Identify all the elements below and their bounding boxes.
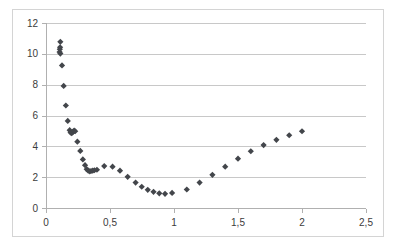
scatter-plot: 02468101200,511,522,5 bbox=[0, 0, 398, 248]
x-tick-label-2: 1 bbox=[171, 217, 177, 228]
data-point-0-0 bbox=[57, 39, 63, 45]
x-axis-tick-labels: 00,511,522,5 bbox=[43, 217, 373, 228]
data-point-0-38 bbox=[184, 186, 190, 192]
data-points bbox=[56, 39, 305, 197]
data-point-0-33 bbox=[145, 187, 151, 193]
y-tick-label-5: 10 bbox=[27, 48, 39, 59]
data-point-0-47 bbox=[299, 128, 305, 134]
data-point-0-39 bbox=[197, 179, 203, 185]
chart-canvas: 02468101200,511,522,5 bbox=[0, 0, 398, 248]
data-point-0-7 bbox=[63, 102, 69, 108]
y-tick-label-2: 4 bbox=[32, 141, 38, 152]
data-point-0-46 bbox=[286, 132, 292, 138]
data-point-0-16 bbox=[74, 139, 80, 145]
data-point-0-30 bbox=[125, 174, 131, 180]
gridlines bbox=[46, 24, 366, 209]
data-point-0-45 bbox=[273, 137, 279, 143]
y-tick-label-3: 6 bbox=[32, 110, 38, 121]
data-point-0-34 bbox=[150, 189, 156, 195]
y-tick-label-4: 8 bbox=[32, 79, 38, 90]
y-tick-label-0: 0 bbox=[32, 203, 38, 214]
data-point-0-43 bbox=[248, 148, 254, 154]
data-point-0-35 bbox=[156, 190, 162, 196]
y-axis-tick-labels: 024681012 bbox=[27, 18, 39, 214]
x-tick-label-0: 0 bbox=[43, 217, 49, 228]
x-tick-label-4: 2 bbox=[299, 217, 305, 228]
data-point-0-41 bbox=[222, 164, 228, 170]
data-point-0-36 bbox=[162, 191, 168, 197]
data-point-0-29 bbox=[117, 168, 123, 174]
y-tick-label-1: 2 bbox=[32, 172, 38, 183]
x-tick-label-5: 2,5 bbox=[359, 217, 373, 228]
x-tick-label-1: 0,5 bbox=[103, 217, 117, 228]
data-point-0-27 bbox=[101, 163, 107, 169]
data-point-0-18 bbox=[80, 156, 86, 162]
data-point-0-31 bbox=[133, 179, 139, 185]
data-point-0-17 bbox=[77, 148, 83, 154]
data-point-0-8 bbox=[65, 118, 71, 124]
data-point-0-42 bbox=[235, 156, 241, 162]
data-point-0-44 bbox=[261, 142, 267, 148]
y-tick-label-6: 12 bbox=[27, 18, 39, 29]
x-tick-label-3: 1,5 bbox=[231, 217, 245, 228]
data-point-0-37 bbox=[169, 190, 175, 196]
data-point-0-5 bbox=[59, 62, 65, 68]
axes bbox=[42, 23, 367, 213]
data-point-0-28 bbox=[109, 164, 115, 170]
data-point-0-6 bbox=[61, 83, 67, 89]
data-point-0-32 bbox=[139, 184, 145, 190]
